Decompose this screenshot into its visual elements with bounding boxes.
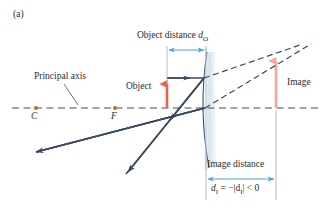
principal-axis-label: Principal axis [34, 72, 86, 82]
image-distance-formula: dI = −|dI| < 0 [211, 184, 259, 196]
principal-axis-leader-line [64, 84, 78, 105]
center-of-curvature-label: C [31, 112, 37, 122]
focal-point-label: F [111, 112, 117, 122]
ray-incident-lower [36, 108, 205, 152]
formula-middle: = −|d [218, 183, 240, 193]
object-distance-label: Object distance dO [137, 31, 208, 43]
optics-figure-convex-mirror: (a) Principal axis Object Image C F Obje… [0, 0, 328, 210]
object-distance-text: Object distance [137, 30, 196, 40]
object-distance-dimension [167, 46, 206, 86]
convex-mirror [203, 48, 217, 170]
point-marker-c [34, 106, 38, 110]
formula-tail: | < 0 [243, 183, 260, 193]
virtual-extension-vertex-ray [205, 44, 311, 108]
point-marker-f [113, 106, 117, 110]
object-distance-subscript: O [203, 35, 208, 43]
virtual-ray-extensions [204, 44, 311, 108]
image-label: Image [287, 78, 311, 88]
panel-label: (a) [13, 10, 24, 20]
virtual-extension-parallel-ray [204, 45, 300, 78]
object-label: Object [126, 82, 151, 92]
image-distance-label: Image distance [207, 160, 264, 170]
